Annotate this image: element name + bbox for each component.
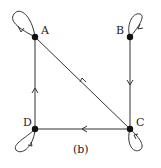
loop-b xyxy=(129,14,142,37)
node-c xyxy=(127,126,133,132)
loop-d xyxy=(15,129,35,152)
arrow-loop-d-icon xyxy=(28,142,32,146)
node-a xyxy=(32,34,38,40)
node-label-d: D xyxy=(23,117,32,128)
node-b xyxy=(127,34,133,40)
node-label-b: B xyxy=(116,25,124,36)
node-label-a: A xyxy=(41,25,49,36)
loop-c xyxy=(129,129,142,151)
node-label-c: C xyxy=(136,117,144,128)
caption: (b) xyxy=(73,144,89,155)
edge-c-a xyxy=(35,37,130,129)
loop-a xyxy=(13,11,35,37)
node-d xyxy=(32,126,38,132)
